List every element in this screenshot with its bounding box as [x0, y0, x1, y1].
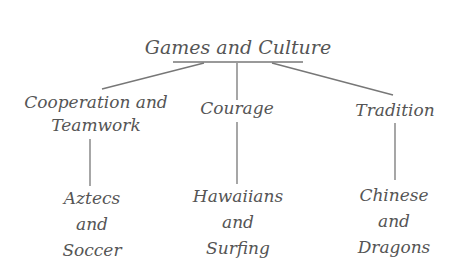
- category-node-tradition: Tradition: [355, 100, 434, 120]
- connector-root-to-tradition: [272, 63, 393, 95]
- example-label-line: Soccer: [62, 237, 121, 263]
- connector-root-to-cooperation: [102, 63, 204, 89]
- example-label-line: Surfing: [193, 235, 283, 261]
- example-label-line: Hawaiians: [193, 183, 283, 209]
- category-label-line: Tradition: [355, 100, 434, 120]
- example-label-line: and: [358, 208, 431, 234]
- concept-diagram: Games and Culture Cooperation and Teamwo…: [0, 0, 455, 276]
- example-node-hawaiians-surfing: Hawaiians and Surfing: [193, 183, 283, 261]
- example-label-line: and: [193, 209, 283, 235]
- category-node-courage: Courage: [200, 98, 273, 118]
- example-label-line: and: [62, 211, 121, 237]
- category-label-line: Cooperation and: [24, 91, 168, 114]
- example-node-chinese-dragons: Chinese and Dragons: [358, 182, 431, 260]
- category-node-cooperation: Cooperation and Teamwork: [24, 91, 168, 137]
- example-label-line: Aztecs: [62, 185, 121, 211]
- example-label-line: Chinese: [358, 182, 431, 208]
- example-node-aztecs-soccer: Aztecs and Soccer: [62, 185, 121, 263]
- category-label-line: Teamwork: [24, 114, 168, 137]
- root-node: Games and Culture: [145, 36, 331, 59]
- category-label-line: Courage: [200, 98, 273, 118]
- example-label-line: Dragons: [358, 234, 431, 260]
- root-label: Games and Culture: [145, 36, 331, 59]
